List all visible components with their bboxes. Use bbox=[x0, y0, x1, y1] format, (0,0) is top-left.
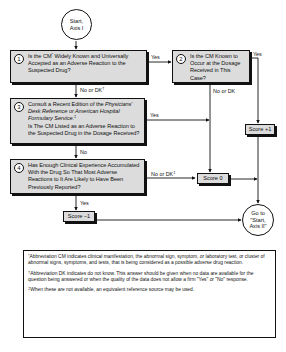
step-number-1: 1 bbox=[14, 54, 24, 64]
footnote-mark: ‡ bbox=[173, 170, 175, 175]
edge-label-q4-no: No or DK‡ bbox=[151, 171, 175, 177]
footnote-reference: ‡When these are not available, an equiva… bbox=[28, 287, 271, 293]
edge-label-text: No or DK bbox=[151, 171, 173, 177]
end-line2: "Start, bbox=[249, 217, 266, 224]
footnotes-box: *Abbreviation CM indicates clinical mani… bbox=[23, 250, 276, 338]
score-0: Score 0 bbox=[197, 173, 229, 184]
edge-label-q3-no: No bbox=[80, 149, 87, 155]
end-node: Go to "Start, Axis II" bbox=[242, 204, 274, 236]
footnote-text: Abbreviation CM indicates clinical manif… bbox=[28, 254, 265, 265]
question-1-text-a: Is the CM bbox=[28, 53, 52, 59]
question-2-text: Is the CM Known to Occur at the Dosage R… bbox=[190, 53, 240, 81]
footnote-text: When these are not available, an equival… bbox=[30, 287, 194, 292]
edge-label-q2-yes: Yes bbox=[253, 51, 262, 57]
start-node: Start, Axis I bbox=[61, 9, 92, 40]
start-line2: Axis I bbox=[70, 25, 84, 32]
question-3-text-a: Consult a Recent Edition of the bbox=[28, 101, 105, 107]
edge-label-text: No or DK bbox=[80, 87, 102, 93]
question-2-box: 2 Is the CM Known to Occur at the Dosage… bbox=[172, 50, 250, 83]
question-4-box: 4 Has Enough Clinical Experience Accumul… bbox=[10, 159, 145, 194]
score-minus-1: Score –1 bbox=[63, 211, 95, 222]
step-number-4: 4 bbox=[14, 163, 24, 173]
edge-label-q4-yes: Yes bbox=[80, 200, 89, 206]
footnote-mark: ‡ bbox=[74, 114, 76, 119]
end-line3: Axis II" bbox=[249, 223, 266, 230]
footnote-cm: *Abbreviation CM indicates clinical mani… bbox=[28, 254, 271, 267]
edge-label-q3-yes: Yes bbox=[150, 112, 159, 118]
question-3-box: 3 Consult a Recent Edition of the Physic… bbox=[10, 98, 145, 144]
step-number-2: 2 bbox=[176, 54, 186, 64]
question-3-text-b: Is The CM Listed as an Adverse Reaction … bbox=[28, 123, 139, 136]
question-1-box: 1 Is the CM* Widely Known and Universall… bbox=[10, 50, 147, 83]
step-number-3: 3 bbox=[14, 102, 24, 112]
end-line1: Go to bbox=[249, 210, 266, 217]
edge-label-q1-yes: Yes bbox=[151, 54, 160, 60]
edge-label-q1-no: No or DK† bbox=[80, 87, 104, 93]
footnote-text: Abbreviation DK indicates do not know. T… bbox=[28, 271, 253, 282]
edge-label-q2-no: No or DK bbox=[213, 88, 235, 94]
footnote-dk: †Abbreviation DK indicates do not know. … bbox=[28, 271, 271, 284]
score-plus-1: Score +1 bbox=[245, 124, 275, 135]
footnote-mark: † bbox=[102, 86, 104, 91]
start-line1: Start, bbox=[70, 18, 84, 25]
question-4-text: Has Enough Clinical Experience Accumulat… bbox=[28, 162, 139, 190]
